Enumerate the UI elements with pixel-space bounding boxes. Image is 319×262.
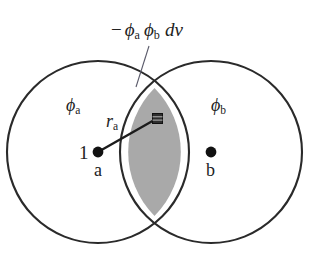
phi-a-subscript: a bbox=[135, 28, 140, 42]
phi-a-symbol: ϕ bbox=[66, 95, 75, 115]
r-symbol: r bbox=[106, 111, 113, 131]
phi-symbol-a: ϕ bbox=[125, 19, 135, 40]
overlap-integral-figure: −ϕaϕbdv ϕa ϕb ra 1 a b bbox=[0, 0, 319, 262]
r-a-sub: a bbox=[113, 120, 118, 132]
label-r-a: ra bbox=[106, 112, 118, 133]
label-dv-expression: −ϕaϕbdv bbox=[111, 20, 183, 42]
leader-line bbox=[136, 46, 149, 87]
phi-b-subscript: b bbox=[154, 28, 160, 42]
nucleus-dot-a bbox=[93, 147, 104, 158]
minus-sign: − bbox=[111, 19, 122, 40]
dv-symbol: dv bbox=[165, 19, 183, 40]
phi-b-sub: b bbox=[220, 104, 226, 116]
volume-element-square bbox=[153, 114, 163, 124]
label-nucleus-a: a bbox=[94, 161, 102, 179]
phi-b-symbol: ϕ bbox=[211, 95, 220, 115]
nucleus-dot-b bbox=[206, 147, 217, 158]
label-electron-1: 1 bbox=[79, 143, 89, 162]
phi-symbol-b: ϕ bbox=[144, 19, 154, 40]
label-phi-b: ϕb bbox=[211, 96, 226, 117]
label-nucleus-b: b bbox=[206, 161, 215, 179]
phi-a-sub: a bbox=[75, 104, 80, 116]
overlap-region-shading bbox=[128, 88, 181, 216]
label-phi-a: ϕa bbox=[66, 96, 80, 117]
